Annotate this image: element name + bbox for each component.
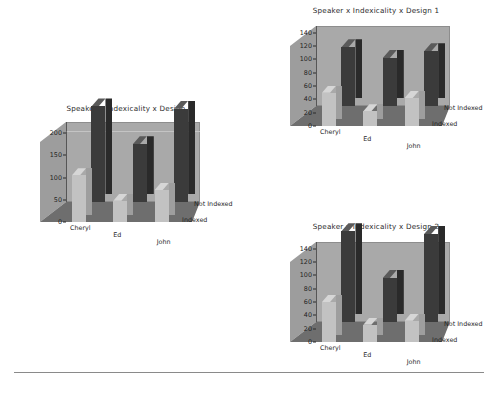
- bar-front-face: [72, 175, 86, 222]
- bar-front-face: [322, 302, 336, 342]
- plot-area: 020406080100120140CherylEdJohnNot Indexe…: [290, 242, 450, 342]
- y-axis-tick-label: 50: [38, 196, 62, 204]
- bar-front-face: [405, 98, 419, 126]
- y-axis-tick-mark: [313, 46, 316, 47]
- bar-not-indexed-cheryl: [341, 231, 355, 322]
- x-axis-label-ed: Ed: [113, 231, 121, 239]
- bar-side-face: [419, 91, 425, 119]
- bar-side-face: [147, 136, 154, 194]
- x-axis-label-cheryl: Cheryl: [320, 344, 341, 352]
- y-axis-tick-label: 60: [288, 82, 312, 90]
- legend-label-indexed: Indexed: [182, 216, 207, 224]
- legend-label-not-indexed: Not Indexed: [194, 200, 233, 208]
- bar-front-face: [155, 190, 169, 222]
- y-axis-tick-label: 100: [288, 271, 312, 279]
- bar-front-face: [405, 321, 419, 342]
- legend-label-not-indexed: Not Indexed: [444, 320, 483, 328]
- bar-side-face: [355, 223, 362, 314]
- y-axis-tick-label: 120: [288, 42, 312, 50]
- figure-page: Speaker x Indexicality x Design 05010015…: [0, 0, 498, 399]
- plot-area: 020406080100120140CherylEdJohnNot Indexe…: [290, 26, 450, 126]
- bar-side-face: [397, 50, 404, 98]
- bar-front-face: [174, 109, 188, 202]
- y-axis-line: [316, 242, 317, 322]
- bar-not-indexed-cheryl: [341, 47, 355, 106]
- bar-front-face: [424, 51, 438, 106]
- y-axis-tick-label: 40: [288, 311, 312, 319]
- y-axis-tick-mark: [313, 262, 316, 263]
- chart-speaker-indexicality-design-1: Speaker x Indexicality x Design 1 020406…: [258, 6, 494, 158]
- bar-front-face: [133, 144, 147, 202]
- y-axis-tick-mark: [313, 86, 316, 87]
- y-axis-tick-label: 200: [38, 129, 62, 137]
- y-axis-tick-label: 80: [288, 69, 312, 77]
- bar-indexed-cheryl: [72, 175, 86, 222]
- y-axis-tick-label: 120: [288, 258, 312, 266]
- y-axis-tick-label: 100: [38, 174, 62, 182]
- bar-indexed-ed: [113, 201, 127, 222]
- bar-front-face: [363, 111, 377, 126]
- y-axis-tick-label: 60: [288, 298, 312, 306]
- bar-front-face: [363, 325, 377, 342]
- bar-side-face: [355, 39, 362, 98]
- y-axis-tick-mark: [313, 302, 316, 303]
- bar-side-face: [438, 226, 445, 314]
- x-axis-label-ed: Ed: [363, 135, 371, 143]
- bar-front-face: [322, 93, 336, 126]
- legend-label-indexed: Indexed: [432, 336, 457, 344]
- y-axis-tick-label: 20: [288, 109, 312, 117]
- bar-side-face: [188, 101, 195, 194]
- y-axis-tick-mark: [313, 248, 316, 249]
- bar-side-face: [336, 86, 342, 119]
- bar-side-face: [377, 318, 383, 335]
- bar-not-indexed-cheryl: [91, 106, 105, 202]
- y-axis-tick-mark: [313, 112, 316, 113]
- y-axis-tick-label: 140: [288, 29, 312, 37]
- y-axis-tick-mark: [313, 288, 316, 289]
- y-axis-tick-label: 40: [288, 95, 312, 103]
- bar-side-face: [377, 104, 383, 119]
- bar-not-indexed-ed: [383, 278, 397, 322]
- y-axis-tick-label: 0: [288, 338, 312, 346]
- bar-side-face: [86, 168, 92, 215]
- bar-side-face: [105, 98, 112, 194]
- bar-front-face: [113, 201, 127, 222]
- page-divider: [14, 372, 484, 373]
- y-axis-tick-mark: [313, 275, 316, 276]
- bar-front-face: [341, 231, 355, 322]
- bar-indexed-ed: [363, 325, 377, 342]
- bar-side-face: [169, 183, 175, 215]
- bar-indexed-ed: [363, 111, 377, 126]
- y-axis-tick-mark: [313, 126, 316, 127]
- legend-label-not-indexed: Not Indexed: [444, 104, 483, 112]
- y-axis-tick-mark: [63, 199, 66, 200]
- y-axis-line: [66, 122, 67, 202]
- bar-front-face: [383, 278, 397, 322]
- bar-not-indexed-ed: [133, 144, 147, 202]
- y-axis-tick-mark: [313, 72, 316, 73]
- bar-indexed-cheryl: [322, 302, 336, 342]
- y-axis-tick-mark: [313, 342, 316, 343]
- x-axis-label-john: John: [157, 238, 171, 246]
- bar-front-face: [383, 58, 397, 106]
- y-axis-line: [316, 26, 317, 106]
- x-axis-label-john: John: [407, 142, 421, 150]
- chart-title: Speaker x Indexicality x Design 2: [258, 222, 494, 231]
- bar-side-face: [438, 43, 445, 98]
- x-axis-label-cheryl: Cheryl: [320, 128, 341, 136]
- y-axis-tick-mark: [63, 155, 66, 156]
- bar-not-indexed-john: [424, 234, 438, 322]
- bar-side-face: [419, 314, 425, 335]
- bar-indexed-john: [155, 190, 169, 222]
- x-axis-label-ed: Ed: [363, 351, 371, 359]
- chart-title: Speaker x Indexicality x Design 1: [258, 6, 494, 15]
- legend-label-indexed: Indexed: [432, 120, 457, 128]
- bar-front-face: [424, 234, 438, 322]
- x-axis-label-john: John: [407, 358, 421, 366]
- y-axis-tick-mark: [313, 59, 316, 60]
- y-axis-tick-label: 0: [288, 122, 312, 130]
- bar-indexed-john: [405, 98, 419, 126]
- x-axis-label-cheryl: Cheryl: [70, 224, 91, 232]
- chart-speaker-indexicality-design: Speaker x Indexicality x Design 05010015…: [10, 104, 242, 254]
- chart-title: Speaker x Indexicality x Design: [10, 104, 242, 113]
